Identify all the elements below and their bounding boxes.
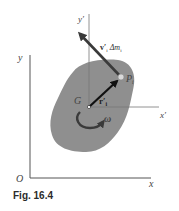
x-axis-label: x [148,178,154,189]
particle-point [118,74,124,80]
center-of-mass-point [87,105,90,108]
rigid-body-diagram: y′ y x′ O x G Pi r′i v′iΔmi ω [0,0,179,211]
rigid-body-slab [50,60,134,153]
y-prime-label: y′ [77,14,85,24]
y-axis-label: y [17,52,23,63]
momentum-vector-label: v′iΔmi [100,43,122,53]
center-of-mass-label: G [74,95,81,106]
x-prime-label: x′ [159,110,167,120]
figure-caption: Fig. 16.4 [13,190,53,201]
angular-velocity-label: ω [104,113,111,124]
origin-label: O [16,173,23,184]
